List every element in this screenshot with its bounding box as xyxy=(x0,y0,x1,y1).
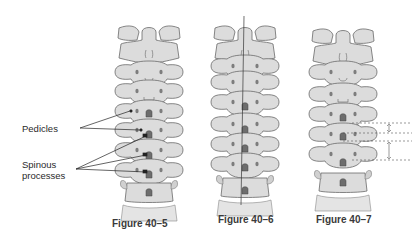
spine-illustrations xyxy=(0,0,412,235)
figure-40-6-spine xyxy=(211,16,279,216)
spinous-processes-label-line2: processes xyxy=(22,170,65,181)
caption-figure-40-7: Figure 40–7 xyxy=(316,214,372,225)
caption-figure-40-5: Figure 40–5 xyxy=(112,218,168,229)
pedicles-label: Pedicles xyxy=(22,123,58,134)
figure-40-5-spine xyxy=(115,26,183,221)
spinous-processes-label-line1: Spinous xyxy=(22,159,56,170)
caption-figure-40-6: Figure 40–6 xyxy=(218,214,274,225)
figure-40-7-spine xyxy=(309,29,377,211)
